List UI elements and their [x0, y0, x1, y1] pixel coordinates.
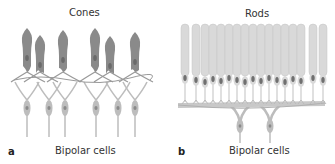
rod-nucleus: [183, 75, 186, 81]
rod-outer-segment: [201, 24, 209, 76]
cone-cell: [22, 28, 32, 72]
bipolar-nucleus: [63, 106, 66, 110]
panel-a-letter: a: [8, 146, 15, 157]
rod-nucleus: [299, 78, 302, 84]
cone-nucleus: [38, 62, 42, 68]
rod-nucleus: [321, 77, 324, 83]
bipolar-dendrite: [84, 82, 108, 100]
bipolar-nucleus: [25, 106, 28, 110]
cones-title: Cones: [69, 7, 100, 18]
rod-nucleus: [243, 79, 246, 85]
bipolar-nucleus: [94, 106, 97, 110]
rod-outer-segment: [217, 24, 225, 76]
rod-outer-segment: [273, 24, 281, 76]
rod-nucleus: [203, 79, 206, 85]
cone-nucleus: [133, 59, 137, 65]
rod-outer-segment: [319, 24, 327, 76]
panel-a-bipolar-label: Bipolar cells: [55, 145, 116, 156]
panel-b-letter: b: [178, 146, 185, 157]
rods-title: Rods: [245, 8, 269, 19]
panel-b-bipolar-label: Bipolar cells: [229, 145, 290, 156]
cone-nucleus: [61, 57, 65, 63]
bipolar-dendrite: [123, 82, 147, 100]
rod-nucleus: [283, 79, 286, 85]
rod-nucleus: [259, 78, 262, 84]
cone-nucleus: [93, 55, 97, 61]
cone-cell: [58, 30, 68, 72]
rod-outer-segment: [281, 24, 289, 76]
cone-nucleus: [108, 63, 112, 69]
rod-nucleus: [267, 75, 270, 81]
rod-outer-segment: [309, 24, 317, 76]
rod-outer-segment: [289, 24, 297, 76]
cone-nucleus: [25, 55, 29, 61]
rod-nucleus: [211, 76, 214, 82]
rod-outer-segment: [192, 24, 200, 76]
rod-outer-segment: [181, 24, 189, 76]
rod-nucleus: [251, 76, 254, 82]
rod-outer-segment: [233, 24, 241, 76]
rod-nucleus: [219, 78, 222, 84]
rod-nucleus: [291, 76, 294, 82]
bipolar-dendrite: [106, 82, 130, 100]
bipolar-nucleus: [239, 124, 242, 128]
rod-outer-segment: [241, 24, 249, 76]
rod-outer-segment: [209, 24, 217, 76]
cone-cell: [130, 32, 140, 72]
cone-cell: [90, 28, 100, 72]
rod-outer-segment: [257, 24, 265, 76]
rod-outer-segment: [297, 24, 305, 76]
rod-nucleus: [275, 77, 278, 83]
rod-nucleus: [227, 75, 230, 81]
retina-diagram: [0, 0, 335, 164]
bipolar-dendrite: [15, 82, 39, 100]
rod-outer-segment: [265, 24, 273, 76]
bipolar-nucleus: [269, 124, 272, 128]
rod-nucleus: [194, 77, 197, 83]
bipolar-nucleus: [47, 106, 50, 110]
bipolar-nucleus: [133, 106, 136, 110]
rod-outer-segment: [225, 24, 233, 76]
rod-outer-segment: [249, 24, 257, 76]
bipolar-nucleus: [116, 106, 119, 110]
rod-nucleus: [311, 75, 314, 81]
rod-nucleus: [235, 77, 238, 83]
